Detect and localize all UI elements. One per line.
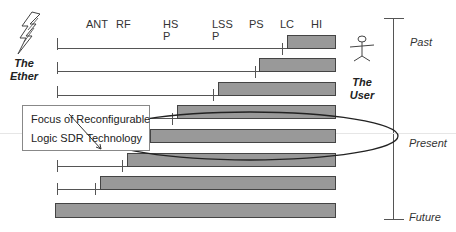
callout-arrow-icon <box>0 0 456 232</box>
